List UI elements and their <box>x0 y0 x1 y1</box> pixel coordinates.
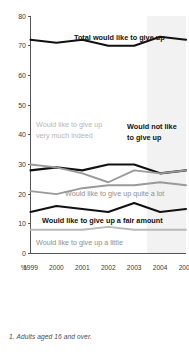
y-axis-tick-label: 10 <box>18 220 26 227</box>
annotation-a-little: Would like to give up a little <box>36 238 123 247</box>
x-axis-tick-label: 2001 <box>75 264 90 271</box>
annotation-very-much-line1: Would like to give up <box>36 120 102 129</box>
y-axis-ticks: 01020304050607080 <box>18 13 30 258</box>
annotation-very-much-line2: very much indeed <box>36 131 93 140</box>
y-axis-tick-label: 40 <box>18 131 26 138</box>
y-axis-tick-label: 60 <box>18 72 26 79</box>
annotation-fair-amount: Would like to give up a fair amount <box>42 216 163 225</box>
percent-unit-label: % <box>21 264 27 271</box>
annotation-not-like-line2: to give up <box>127 133 162 142</box>
chart-plot-area: 01020304050607080 1999200020012002200320… <box>0 0 189 357</box>
x-axis-tick-label: 2000 <box>49 264 64 271</box>
x-axis-tick-label: 2002 <box>101 264 116 271</box>
y-axis-tick-label: 80 <box>18 13 26 20</box>
y-axis-tick-label: 50 <box>18 102 26 109</box>
y-axis-tick-label: 20 <box>18 191 26 198</box>
x-axis-tick-label: 2003 <box>127 264 142 271</box>
y-axis-tick-label: 30 <box>18 161 26 168</box>
y-axis-tick-label: 70 <box>18 42 26 49</box>
annotation-quite-a-lot: Would like to give up quite a lot <box>65 189 164 198</box>
chart-footnote: 1. Adults aged 16 and over. <box>9 333 92 340</box>
annotation-total: Total would like to give up <box>74 33 165 42</box>
x-axis-tick-label: 2004 <box>153 264 168 271</box>
x-axis-tick-label: 2005 <box>179 264 189 271</box>
y-axis-tick-label: 0 <box>22 250 26 257</box>
annotation-not-like-line1: Would not like <box>127 122 177 131</box>
x-axis-ticks: 1999200020012002200320042005 <box>23 264 189 271</box>
line-chart-figure: 01020304050607080 1999200020012002200320… <box>0 0 189 357</box>
